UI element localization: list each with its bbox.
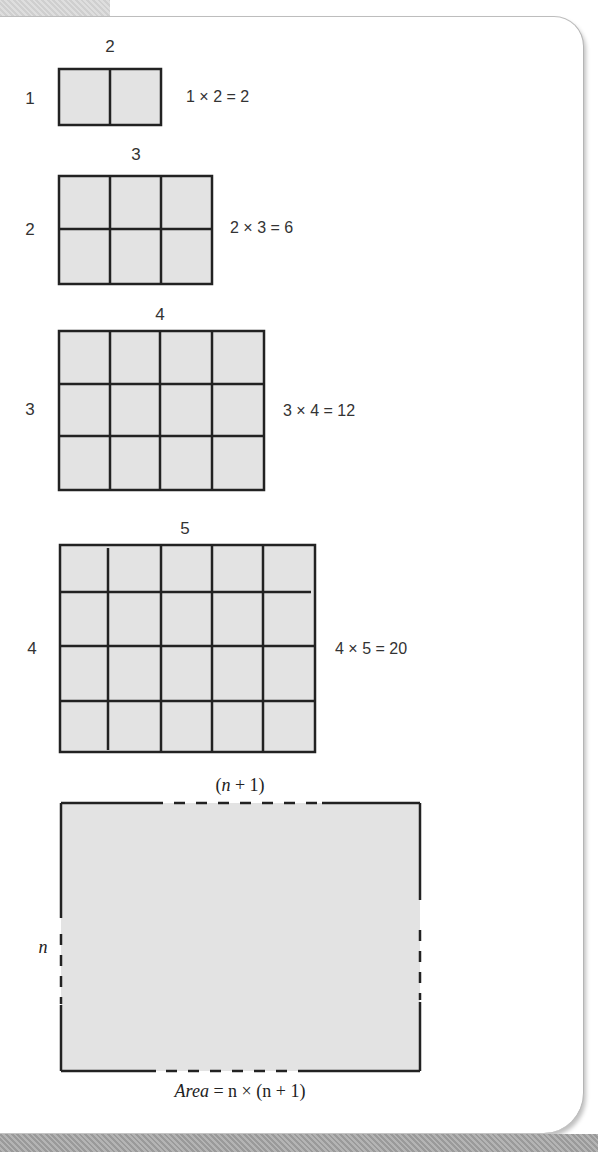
row-label: 4: [27, 639, 36, 658]
row-label: 3: [25, 400, 34, 419]
equation: 4 × 5 = 20: [335, 640, 407, 657]
row-label-general: n: [39, 937, 48, 957]
area-formula: Area = n × (n + 1): [174, 1081, 306, 1102]
grid-rect: [60, 545, 315, 752]
row-label: 2: [25, 220, 34, 239]
general-rectangle: (n + 1) n Area = n × (n + 1): [39, 775, 421, 1102]
general-fill: [61, 803, 420, 1071]
example-4x5: 5 4 4 × 5 = 20: [27, 519, 407, 752]
grid-rect: [59, 331, 264, 490]
example-1x2: 2 1 1 × 2 = 2: [25, 37, 249, 125]
example-3x4: 4 3 3 × 4 = 12: [25, 305, 355, 490]
col-label: 2: [105, 37, 114, 56]
col-label: 5: [180, 519, 189, 538]
equation: 3 × 4 = 12: [283, 402, 355, 419]
equation: 2 × 3 = 6: [230, 219, 293, 236]
col-label: 4: [155, 305, 164, 324]
row-label: 1: [25, 89, 34, 108]
col-label-general: (n + 1): [215, 775, 264, 796]
equation: 1 × 2 = 2: [186, 88, 249, 105]
diagram-canvas: 2 1 1 × 2 = 2 3 2 2 × 3 = 6 4 3 3 × 4 = …: [0, 0, 598, 1152]
col-label: 3: [131, 145, 140, 164]
example-2x3: 3 2 2 × 3 = 6: [25, 145, 293, 284]
